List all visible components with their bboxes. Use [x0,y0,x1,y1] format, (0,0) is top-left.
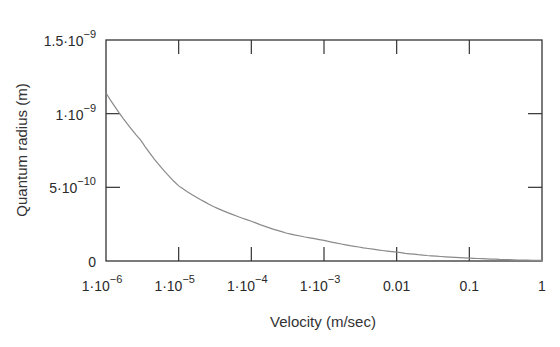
y-tick-label: 1·10−9 [55,102,96,123]
chart: 05·10−101·10−91.5·10−9 1·10−61·10−51·10−… [0,0,560,347]
x-tick-label: 0.01 [383,278,410,294]
x-axis-title: Velocity (m/sec) [270,313,376,330]
y-axis-title: Quantum radius (m) [13,83,30,216]
y-tick-label: 0 [88,254,96,270]
axis-ticks [106,40,542,261]
x-tick-label: 1 [538,278,546,294]
x-tick-label: 1·10−3 [300,273,341,294]
x-tick-label: 1·10−4 [227,273,268,294]
data-series-line [106,93,542,260]
x-tick-label: 0.1 [460,278,480,294]
x-tick-labels: 1·10−61·10−51·10−41·10−30.010.11 [82,273,546,294]
plot-frame [106,40,542,261]
x-tick-label: 1·10−5 [154,273,195,294]
plot-border [106,40,542,261]
x-tick-label: 1·10−6 [82,273,123,294]
y-tick-labels: 05·10−101·10−91.5·10−9 [44,28,96,270]
y-tick-label: 5·10−10 [49,175,96,196]
y-tick-label: 1.5·10−9 [44,28,96,49]
